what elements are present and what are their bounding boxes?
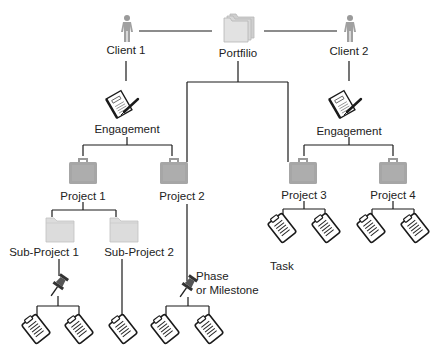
engagement-1-contract-icon: [106, 91, 138, 119]
sub-project-1-folder-icon: [46, 218, 74, 242]
task-clipboard-icon: [399, 211, 429, 243]
sub-project-1-pushpin-icon: [46, 273, 70, 300]
engagement-2-contract-icon: [329, 91, 361, 119]
task-clipboard-icon: [20, 312, 50, 344]
sub-project-1-label: Sub-Project 1: [9, 246, 79, 259]
task-clipboard-icon: [63, 312, 93, 344]
project-4-briefcase-icon: [379, 158, 407, 184]
engagement-2-label: Engagement: [316, 125, 381, 138]
client-1-label: Client 1: [107, 44, 146, 57]
phase-label-line1: Phase: [196, 270, 229, 283]
engagement-1-label: Engagement: [94, 123, 159, 136]
task-clipboard-icon: [310, 211, 340, 243]
portfolio-stacked-folders-icon: [224, 14, 254, 42]
project-2-label: Project 2: [159, 190, 204, 203]
portfolio-label: Portfilio: [219, 47, 257, 60]
client-2-label: Client 2: [330, 45, 369, 58]
task-label: Task: [270, 260, 294, 273]
sub-project-2-label: Sub-Project 2: [104, 246, 174, 259]
phase-label-line2: or Milestone: [196, 284, 259, 297]
project-4-label: Project 4: [370, 189, 415, 202]
client-1-person-icon: [121, 15, 133, 42]
task-clipboard-icon: [107, 312, 137, 344]
project-1-briefcase-icon: [69, 158, 97, 184]
task-clipboard-icon: [266, 211, 296, 243]
project-2-briefcase-icon: [160, 158, 188, 184]
task-clipboard-icon: [149, 312, 179, 344]
client-2-person-icon: [344, 15, 356, 42]
project-3-label: Project 3: [281, 189, 326, 202]
project-3-briefcase-icon: [289, 158, 317, 184]
task-clipboard-icon: [355, 211, 385, 243]
project-1-label: Project 1: [60, 190, 105, 203]
sub-project-2-folder-icon: [110, 218, 138, 242]
task-clipboard-icon: [193, 312, 223, 344]
